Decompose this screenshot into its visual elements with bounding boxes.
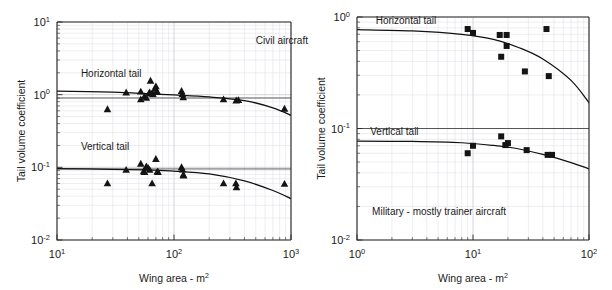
x-tick-label: 102 <box>166 247 182 261</box>
figure-canvas: 10-210-1100101101102103Tail volume coeff… <box>0 0 612 290</box>
data-point-square <box>505 140 511 146</box>
tick-labels-civil: 10-210-1100101101102103 <box>31 15 299 261</box>
data-point-triangle <box>220 179 228 186</box>
x-tick-label: 100 <box>349 247 365 261</box>
tail-volume-coefficient-figure: 10-210-1100101101102103Tail volume coeff… <box>0 0 612 290</box>
data-point-square <box>498 54 504 60</box>
vertical-tail-label: Vertical tail <box>370 126 418 137</box>
y-axis-label: Tail volume coefficient <box>315 77 327 180</box>
data-point-triangle <box>152 155 160 162</box>
horizontal-tail-label: Horizontal tail <box>376 15 437 26</box>
y-tick-label: 101 <box>34 15 50 29</box>
data-point-square <box>524 147 530 153</box>
y-tick-label: 10-1 <box>31 160 50 174</box>
x-tick-label: 102 <box>581 247 597 261</box>
data-point-square <box>543 26 549 32</box>
y-tick-label: 100 <box>334 10 350 24</box>
data-point-square <box>546 73 552 79</box>
data-point-square <box>522 68 528 74</box>
horizontal-tail-label: Horizontal tail <box>81 68 142 79</box>
data-point-square <box>470 143 476 149</box>
data-point-square <box>549 152 555 158</box>
vertical-tail-label: Vertical tail <box>81 141 129 152</box>
data-point-triangle <box>104 105 112 112</box>
gridlines-civil <box>57 22 291 240</box>
data-point-triangle <box>137 88 145 95</box>
chart-military: 10-210-1100100101102Tail volume coeffici… <box>315 10 597 285</box>
data-point-square <box>504 32 510 38</box>
data-point-triangle <box>122 89 130 96</box>
data-point-square <box>470 30 476 36</box>
data-point-triangle <box>104 179 112 186</box>
data-markers-civil <box>104 77 289 190</box>
y-axis-label: Tail volume coefficient <box>15 80 27 183</box>
data-point-triangle <box>137 160 145 167</box>
y-tick-label: 10-2 <box>331 233 350 247</box>
data-point-square <box>498 133 504 139</box>
x-tick-label: 101 <box>465 247 481 261</box>
data-point-square <box>465 26 471 32</box>
data-point-square <box>465 150 471 156</box>
data-point-square <box>497 32 503 38</box>
x-tick-label: 101 <box>49 247 65 261</box>
y-tick-label: 100 <box>34 87 50 101</box>
series-horizontal-tail <box>465 26 552 79</box>
y-tick-label: 10-1 <box>331 121 350 135</box>
military-aircraft-annotation: Military - mostly trainer aircraft <box>372 206 506 217</box>
chart-civil: 10-210-1100101101102103Tail volume coeff… <box>15 15 308 285</box>
x-tick-label: 103 <box>283 247 299 261</box>
data-markers-military <box>465 26 555 158</box>
x-axis-label: Wing area - m2 <box>438 272 508 284</box>
data-point-square <box>504 43 510 49</box>
x-axis-label: Wing area - m2 <box>139 272 209 284</box>
civil-aircraft-annotation: Civil aircraft <box>256 35 308 46</box>
data-point-triangle <box>148 179 156 186</box>
y-tick-label: 10-2 <box>31 233 50 247</box>
